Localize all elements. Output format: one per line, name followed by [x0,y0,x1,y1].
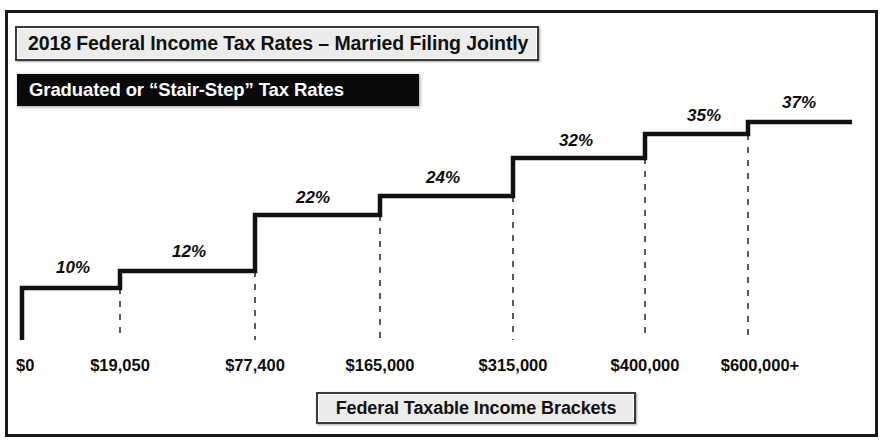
rate-label: 12% [172,242,206,262]
bracket-label: $600,000+ [721,356,799,375]
x-axis-title: Federal Taxable Income Brackets [336,398,617,419]
page-title: 2018 Federal Income Tax Rates – Married … [28,32,528,55]
bracket-label: $19,050 [90,356,150,375]
subtitle-banner: Graduated or “Stair-Step” Tax Rates [17,74,419,106]
rate-label: 35% [687,106,721,126]
rate-label: 10% [56,258,90,278]
bracket-label: $165,000 [346,356,415,375]
bracket-label: $400,000 [611,356,680,375]
bracket-label: $77,400 [225,356,285,375]
axis-title-banner: Federal Taxable Income Brackets [316,392,636,424]
bracket-label: $0 [16,356,34,375]
rate-label: 37% [782,93,816,113]
rate-label: 22% [296,188,330,208]
bracket-label: $315,000 [479,356,548,375]
tax-rates-infographic: 2018 Federal Income Tax Rates – Married … [0,0,888,447]
title-banner: 2018 Federal Income Tax Rates – Married … [15,26,539,61]
rate-label: 32% [559,131,593,151]
subtitle-text: Graduated or “Stair-Step” Tax Rates [29,79,344,101]
rate-label: 24% [426,168,460,188]
